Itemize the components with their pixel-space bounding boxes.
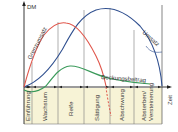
phase-label-saettigung: Sättigung (93, 94, 100, 121)
product-life-cycle-chart: DM Zeit Umsatz Grenzumsatz Deckungsbeitr… (0, 0, 178, 132)
phase-label-wachstum: Wachstum (41, 92, 48, 121)
grenzumsatz-label: Grenzumsatz (27, 26, 49, 61)
phase-label-absterben: Absterben/ (140, 91, 147, 121)
umsatz-label: Umsatz (141, 29, 160, 47)
phase-label-versteinerung: Versteinerung (147, 82, 154, 121)
phase-label-einfuehrung: Einführung (24, 91, 31, 121)
phase-label-reife: Reife (67, 101, 74, 116)
x-axis-label: Zeit (167, 95, 173, 105)
y-axis-arrow-icon (22, 1, 26, 6)
x-axis-arrow-icon (167, 85, 172, 89)
y-axis-label: DM (27, 4, 36, 10)
umsatz-curve (24, 8, 162, 87)
grenzumsatz-curve (24, 23, 106, 87)
deckungsbeitrag-label: Deckungsbeitrag (101, 74, 146, 83)
phase-label-abschwung: Abschwung (118, 88, 125, 121)
